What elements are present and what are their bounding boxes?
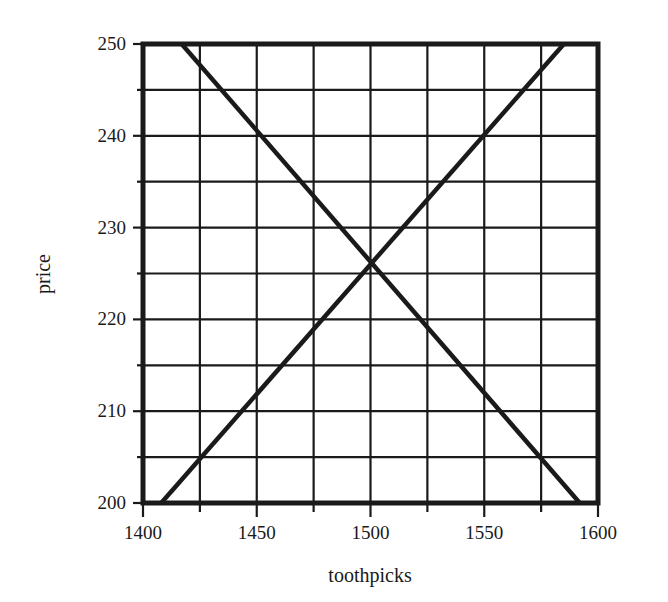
y-tick-label: 220 (98, 308, 127, 329)
x-tick-label: 1600 (579, 522, 617, 543)
y-tick-label: 210 (98, 400, 127, 421)
y-axis-ticks: 200210220230240250 (98, 33, 144, 513)
y-axis-title: price (32, 254, 55, 294)
grid-lines (143, 44, 598, 503)
y-tick-label: 250 (98, 33, 127, 54)
x-tick-label: 1400 (124, 522, 162, 543)
y-tick-label: 230 (98, 217, 127, 238)
x-tick-label: 1450 (238, 522, 276, 543)
x-tick-label: 1500 (352, 522, 390, 543)
x-tick-label: 1550 (465, 522, 503, 543)
x-axis-title: toothpicks (328, 564, 412, 587)
supply-demand-chart: 14001450150015501600 200210220230240250 … (0, 0, 668, 602)
y-tick-label: 240 (98, 125, 127, 146)
x-axis-ticks: 14001450150015501600 (124, 503, 617, 543)
y-tick-label: 200 (98, 492, 127, 513)
